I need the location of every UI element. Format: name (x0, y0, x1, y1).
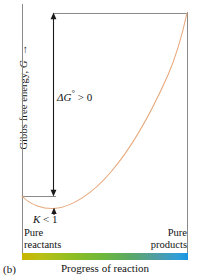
pure-products-level-line (53, 13, 188, 14)
y-axis-label-prefix: Gibbs free energy, (18, 68, 29, 150)
pure-reactants-line2: reactants (24, 239, 61, 251)
pure-products-line1: Pure (151, 227, 187, 239)
pure-reactants-line1: Pure (24, 227, 61, 239)
gibbs-energy-curve (22, 13, 187, 208)
panel-letter: (b) (3, 263, 16, 275)
delta-g-symbol: ΔG (57, 91, 71, 103)
right-boundary-line (187, 12, 188, 253)
pure-reactants-level-line (22, 196, 56, 197)
delta-g-label: ΔG° > 0 (57, 88, 92, 103)
delta-g-arrow (51, 13, 57, 197)
pure-products-caption: Pure products (151, 227, 187, 251)
y-axis-label-symbol: G (18, 60, 29, 68)
pure-reactants-caption: Pure reactants (24, 227, 61, 251)
reaction-progress-gradient-bar (22, 253, 188, 260)
equilibrium-constant-label: K < 1 (33, 213, 58, 225)
y-axis-arrow-icon: → (18, 45, 29, 55)
equilibrium-constant-relation: < 1 (40, 213, 57, 225)
x-axis-label: Progress of reaction (22, 262, 188, 274)
delta-g-relation: > 0 (75, 91, 92, 103)
pure-products-line2: products (151, 239, 187, 251)
y-axis-line (22, 4, 23, 253)
gibbs-free-energy-figure: Gibbs free energy, G → ΔG° > 0 K < 1 Pur… (0, 0, 201, 279)
y-axis-label: Gibbs free energy, G → (18, 3, 29, 193)
